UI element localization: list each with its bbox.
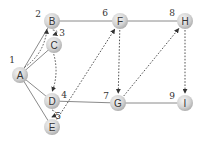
edge-d-g	[52, 101, 118, 103]
node-e: E	[44, 119, 60, 135]
node-d: D	[44, 93, 60, 109]
node-label: A	[17, 70, 24, 81]
node-label: B	[49, 16, 56, 27]
node-label: H	[181, 16, 188, 27]
step-label-9: 9	[169, 91, 175, 101]
arrow-e-to-f	[57, 29, 115, 119]
node-label: D	[48, 96, 55, 107]
graph-edges	[20, 21, 185, 127]
step-label-7: 7	[103, 91, 109, 101]
arrow-g-to-h	[124, 29, 179, 96]
arrow-b-to-c	[53, 30, 58, 35]
step-label-5: 5	[55, 111, 61, 121]
step-label-3: 3	[59, 28, 65, 38]
node-c: C	[46, 37, 62, 53]
node-label: G	[114, 98, 122, 109]
step-label-6: 6	[102, 8, 108, 18]
step-label-4: 4	[61, 90, 67, 100]
node-a: A	[12, 67, 28, 83]
node-h: H	[177, 13, 193, 29]
node-g: G	[110, 95, 126, 111]
node-f: F	[112, 13, 128, 29]
node-label: I	[184, 98, 187, 109]
step-label-2: 2	[35, 9, 41, 19]
dfs-graph-diagram: ABCDEFGHI 123456789	[0, 0, 204, 141]
step-label-1: 1	[9, 55, 15, 65]
node-label: E	[49, 122, 56, 133]
arrow-f-to-g	[118, 30, 120, 93]
node-label: C	[50, 40, 57, 51]
node-b: B	[44, 13, 60, 29]
node-label: F	[117, 16, 123, 27]
node-i: I	[177, 95, 193, 111]
graph-nodes: ABCDEFGHI	[12, 13, 193, 135]
step-label-8: 8	[169, 8, 175, 18]
arrow-c-to-d	[52, 54, 56, 91]
